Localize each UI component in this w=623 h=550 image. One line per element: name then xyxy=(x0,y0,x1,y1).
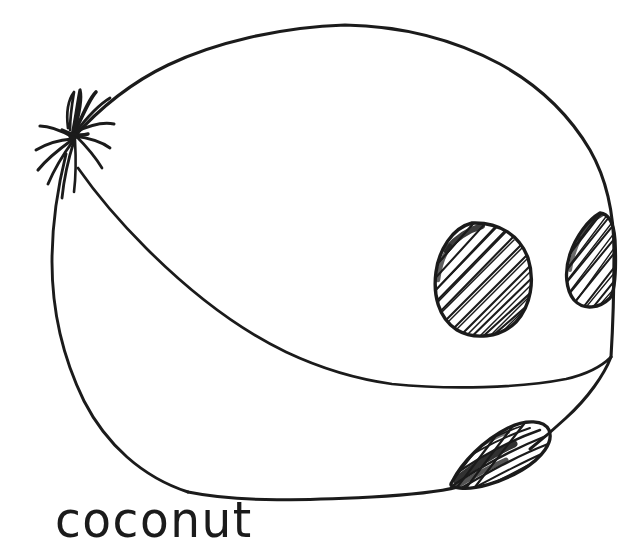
coconut-drawing xyxy=(0,0,623,550)
coconut-illustration-page: coconut xyxy=(0,0,623,550)
